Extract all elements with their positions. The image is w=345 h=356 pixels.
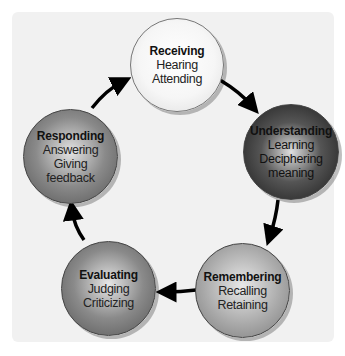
node-title: Evaluating <box>79 268 138 282</box>
node-understanding: Understanding Learning Deciphering meani… <box>243 104 339 200</box>
node-line: Answering <box>43 143 99 157</box>
node-line: Learning <box>268 138 314 152</box>
node-line: Recalling <box>218 284 267 298</box>
node-line: Giving <box>54 157 88 171</box>
node-title: Receiving <box>150 44 205 58</box>
node-line: Retaining <box>217 298 267 312</box>
node-line: Hearing <box>156 58 198 72</box>
arrow-understanding-to-remembering <box>270 200 278 236</box>
arrow-responding-to-receiving <box>92 82 122 108</box>
node-responding: Responding Answering Giving feedback <box>23 109 118 204</box>
node-line: feedback <box>46 171 94 185</box>
node-line: Criticizing <box>83 296 134 310</box>
node-line: Judging <box>88 282 130 296</box>
node-title: Responding <box>37 129 104 143</box>
node-receiving: Receiving Hearing Attending <box>130 18 224 112</box>
node-title: Understanding <box>250 124 332 138</box>
arrow-remembering-to-evaluating <box>166 290 196 292</box>
arrow-receiving-to-understanding <box>220 80 252 106</box>
node-line: Attending <box>152 72 202 86</box>
node-line: Deciphering <box>259 152 322 166</box>
arrow-evaluating-to-responding <box>72 210 84 240</box>
node-evaluating: Evaluating Judging Criticizing <box>61 241 156 336</box>
node-remembering: Remembering Recalling Retaining <box>195 243 290 338</box>
node-line: meaning <box>268 166 314 180</box>
node-title: Remembering <box>204 270 282 284</box>
